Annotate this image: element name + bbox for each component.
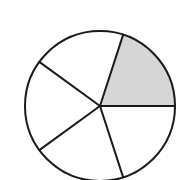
sector-divider: [100, 106, 123, 177]
fraction-circle: [0, 0, 190, 180]
sector-divider: [39, 106, 100, 150]
diagram-canvas: [0, 0, 190, 180]
sector-divider: [39, 62, 100, 106]
